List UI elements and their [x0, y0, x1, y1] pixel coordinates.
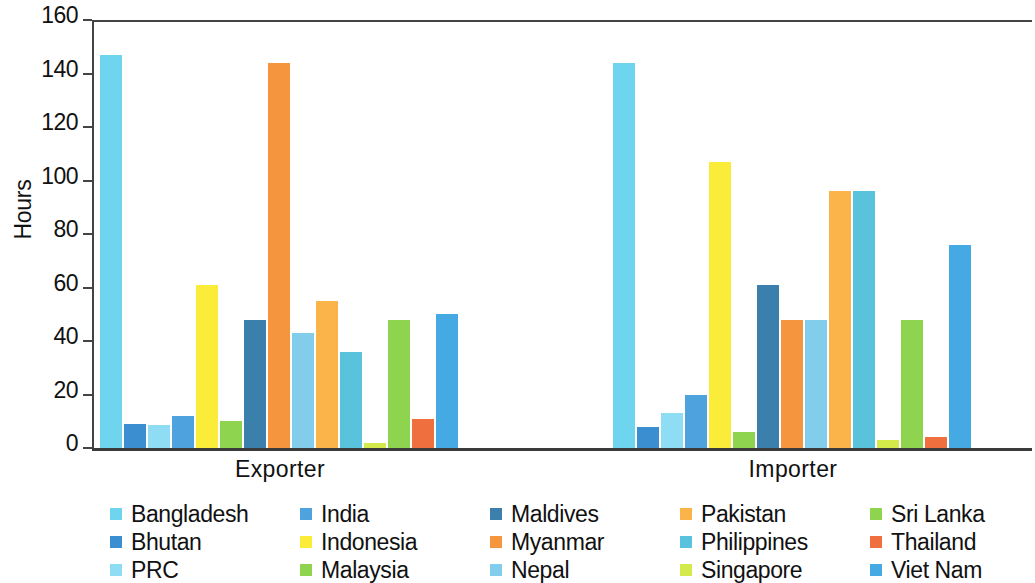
y-axis-tick-mark [83, 394, 92, 396]
bar[interactable] [124, 424, 146, 448]
bar-group-bars [100, 20, 458, 448]
bar[interactable] [685, 395, 707, 449]
bar[interactable] [733, 432, 755, 448]
y-axis-tick-label: 80 [53, 218, 78, 241]
y-axis-tick-label: 120 [41, 111, 78, 134]
legend-item-label: Singapore [701, 558, 802, 582]
legend-item[interactable]: Viet Nam [870, 558, 1030, 582]
y-axis-tick-mark [83, 340, 92, 342]
bar[interactable] [268, 63, 290, 448]
legend-swatch-icon [680, 508, 692, 520]
bar[interactable] [388, 320, 410, 448]
legend-item[interactable]: Bangladesh [110, 502, 300, 526]
bar[interactable] [661, 413, 683, 448]
legend-item[interactable]: Nepal [490, 558, 680, 582]
legend-item[interactable]: Myanmar [490, 530, 680, 554]
y-axis-tick-label: 100 [41, 165, 78, 188]
y-axis-tick-label: 160 [41, 4, 78, 27]
legend-swatch-icon [300, 564, 312, 576]
legend-item-label: PRC [131, 558, 178, 582]
y-axis-title: Hours [10, 135, 37, 285]
bar[interactable] [613, 63, 635, 448]
legend-item-label: Nepal [511, 558, 569, 582]
legend-swatch-icon [490, 508, 502, 520]
y-axis-tick-mark [83, 180, 92, 182]
legend-item[interactable]: Bhutan [110, 530, 300, 554]
y-axis-tick-label: 0 [66, 432, 78, 455]
bar-chart-figure: 160140120100806040200 Hours ExporterImpo… [0, 0, 1035, 583]
y-axis-tick-mark [83, 126, 92, 128]
legend-item-label: Viet Nam [891, 558, 982, 582]
bar[interactable] [757, 285, 779, 448]
bar[interactable] [925, 437, 947, 448]
bar[interactable] [244, 320, 266, 448]
legend-swatch-icon [110, 536, 122, 548]
bar[interactable] [901, 320, 923, 448]
legend-item[interactable]: Sri Lanka [870, 502, 1030, 526]
legend-item[interactable]: India [300, 502, 490, 526]
y-axis-tick-mark [83, 73, 92, 75]
bar[interactable] [949, 245, 971, 448]
bar[interactable] [805, 320, 827, 448]
legend-item[interactable]: Singapore [680, 558, 870, 582]
legend-item[interactable]: Pakistan [680, 502, 870, 526]
y-axis-tick-label: 20 [53, 379, 78, 402]
legend-item-label: Maldives [511, 502, 599, 526]
x-axis-baseline [92, 448, 1032, 451]
legend-swatch-icon [490, 536, 502, 548]
bar[interactable] [292, 333, 314, 448]
bar[interactable] [100, 55, 122, 448]
legend-item-label: Thailand [891, 530, 976, 554]
legend-item-label: India [321, 502, 369, 526]
bar[interactable] [709, 162, 731, 448]
legend-item-label: Myanmar [511, 530, 604, 554]
bar-group-bars [613, 20, 971, 448]
legend-item-label: Indonesia [321, 530, 417, 554]
legend-item-label: Bhutan [131, 530, 202, 554]
bar[interactable] [148, 425, 170, 448]
legend-item-label: Sri Lanka [891, 502, 985, 526]
bar[interactable] [412, 419, 434, 448]
legend-swatch-icon [300, 508, 312, 520]
legend-item-label: Malaysia [321, 558, 409, 582]
y-axis-tick-mark [83, 287, 92, 289]
x-axis-group-label: Exporter [40, 456, 520, 483]
legend-swatch-icon [490, 564, 502, 576]
legend-swatch-icon [110, 508, 122, 520]
y-axis-tick-label: 40 [53, 325, 78, 348]
bar[interactable] [316, 301, 338, 448]
bar[interactable] [853, 191, 875, 448]
legend-item[interactable]: PRC [110, 558, 300, 582]
bar[interactable] [829, 191, 851, 448]
legend-swatch-icon [680, 536, 692, 548]
y-axis-tick-mark [83, 19, 92, 21]
bar[interactable] [436, 314, 458, 448]
legend-item[interactable]: Maldives [490, 502, 680, 526]
legend-item[interactable]: Philippines [680, 530, 870, 554]
bar[interactable] [340, 352, 362, 448]
y-axis-tick-mark [83, 233, 92, 235]
legend-swatch-icon [110, 564, 122, 576]
legend-item[interactable]: Thailand [870, 530, 1030, 554]
x-axis-group-label: Importer [553, 456, 1033, 483]
bar[interactable] [781, 320, 803, 448]
bar[interactable] [637, 427, 659, 448]
legend-item-label: Philippines [701, 530, 808, 554]
legend-swatch-icon [300, 536, 312, 548]
legend-item[interactable]: Indonesia [300, 530, 490, 554]
chart-legend: BangladeshIndiaMaldivesPakistanSri Lanka… [110, 500, 1035, 583]
y-axis-tick-label: 140 [41, 58, 78, 81]
legend-swatch-icon [870, 508, 882, 520]
legend-swatch-icon [680, 564, 692, 576]
legend-item[interactable]: Malaysia [300, 558, 490, 582]
legend-item-label: Pakistan [701, 502, 786, 526]
bar[interactable] [877, 440, 899, 448]
bar[interactable] [364, 443, 386, 448]
bar[interactable] [172, 416, 194, 448]
y-axis-tick-label: 60 [53, 272, 78, 295]
legend-item-label: Bangladesh [131, 502, 249, 526]
bar[interactable] [220, 421, 242, 448]
bar[interactable] [196, 285, 218, 448]
legend-swatch-icon [870, 564, 882, 576]
y-axis-tick-mark [83, 447, 92, 449]
